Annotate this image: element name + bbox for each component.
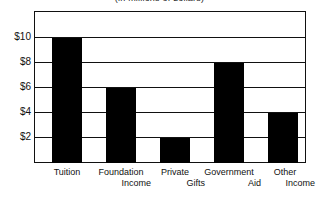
- plot-area: [34, 11, 306, 163]
- chart-subtitle: (in millions of dollars): [0, 0, 319, 3]
- y-axis: $2 $4 $6 $8 $10: [0, 11, 31, 163]
- x-label-other-income: Other Income: [255, 167, 315, 189]
- gridline-6: [35, 87, 305, 88]
- y-tick-label: $6: [1, 81, 31, 92]
- x-label-government-aid: Government Aid: [197, 167, 261, 189]
- gridline-4: [35, 112, 305, 113]
- y-tick-label: $10: [1, 31, 31, 42]
- bar-chart: (in millions of dollars) $2 $4 $6 $8 $10…: [0, 0, 319, 199]
- x-label-foundation-income: Foundation Income: [91, 167, 151, 189]
- y-tick-label: $4: [1, 106, 31, 117]
- gridline-10: [35, 37, 305, 38]
- y-tick-label: $2: [1, 131, 31, 142]
- x-label-tuition: Tuition: [37, 167, 97, 178]
- x-axis: Tuition Foundation Income Private Gifts …: [34, 167, 306, 199]
- x-label-private-gifts: Private Gifts: [145, 167, 205, 189]
- y-tick-label: $8: [1, 56, 31, 67]
- gridline-8: [35, 62, 305, 63]
- gridline-2: [35, 137, 305, 138]
